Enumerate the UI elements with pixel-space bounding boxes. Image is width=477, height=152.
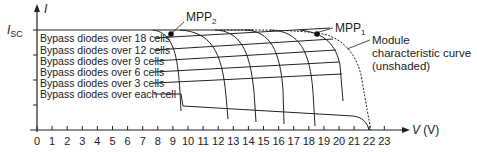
y-axis-title: I — [44, 2, 47, 16]
bypass-label-18: Bypass diodes over 18 cells — [40, 32, 170, 44]
x-tick-label: 13 — [227, 135, 239, 147]
x-tick-label: 23 — [378, 135, 390, 147]
x-axis-title: V (V) — [412, 123, 439, 137]
x-tick-label: 14 — [242, 135, 254, 147]
x-tick-label: 2 — [64, 135, 70, 147]
mpp1-label: MPP1 — [335, 22, 365, 36]
x-tick-label: 10 — [182, 135, 194, 147]
each-cell-curve — [181, 94, 369, 130]
x-tick-label: 17 — [288, 135, 300, 147]
x-tick-label: 18 — [303, 135, 315, 147]
x-tick-label: 20 — [333, 135, 345, 147]
x-tick-label: 7 — [140, 135, 146, 147]
x-tick-label: 1 — [49, 135, 55, 147]
x-tick-label: 3 — [79, 135, 85, 147]
mpp1-marker — [314, 31, 320, 37]
x-tick-label: 16 — [272, 135, 284, 147]
x-tick-label: 11 — [197, 135, 208, 147]
x-tick-label: 0 — [34, 135, 40, 147]
x-axis-arrow-icon — [402, 127, 410, 133]
x-tick-label: 12 — [212, 135, 224, 147]
bypass-label-each: Bypass diodes over each cell — [40, 88, 176, 100]
x-tick-label: 4 — [94, 135, 100, 147]
x-tick-label: 15 — [257, 135, 269, 147]
x-tick-label: 6 — [125, 135, 131, 147]
mpp2-label: MPP2 — [186, 11, 216, 25]
y-axis-arrow-icon — [34, 4, 40, 12]
x-tick-label: 9 — [170, 135, 176, 147]
isc-label: ISC — [7, 23, 23, 37]
x-tick-label: 19 — [318, 135, 330, 147]
x-tick-label: 21 — [348, 135, 360, 147]
x-tick-label: 8 — [155, 135, 161, 147]
module-label: Module characteristic curve (unshaded) — [372, 34, 471, 73]
x-tick-label: 22 — [363, 135, 375, 147]
x-tick-label: 5 — [109, 135, 115, 147]
